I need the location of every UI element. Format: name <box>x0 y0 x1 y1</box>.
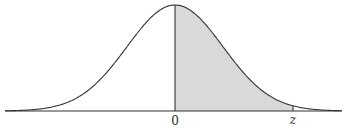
label-zero: 0 <box>171 114 179 128</box>
normal-curve-diagram: 0 z <box>0 0 349 128</box>
shaded-area-0-to-z <box>175 5 293 111</box>
label-z: z <box>289 113 297 127</box>
bell-curve <box>5 5 342 111</box>
